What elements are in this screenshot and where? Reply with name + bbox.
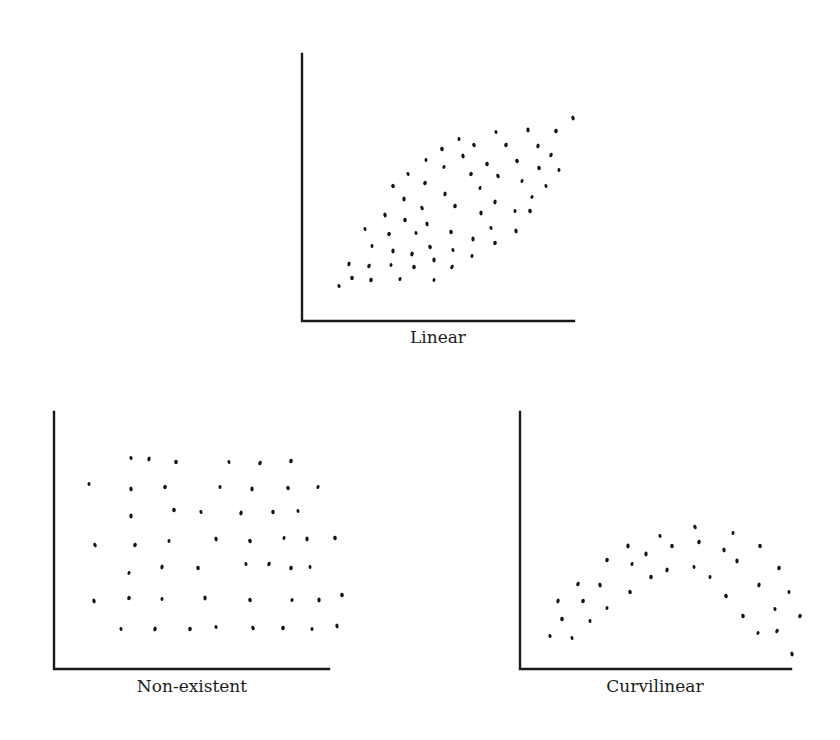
points-curvilinear bbox=[548, 524, 803, 657]
data-point bbox=[133, 542, 138, 547]
data-point bbox=[588, 619, 591, 623]
data-point bbox=[427, 244, 432, 249]
data-point bbox=[363, 227, 367, 232]
data-point bbox=[644, 551, 648, 556]
data-point bbox=[470, 254, 473, 258]
data-point bbox=[741, 613, 745, 618]
points-nonexistent bbox=[87, 456, 344, 632]
data-point bbox=[731, 531, 735, 536]
data-point bbox=[310, 627, 313, 631]
data-point bbox=[398, 277, 402, 282]
points-linear bbox=[337, 115, 576, 288]
data-point bbox=[167, 539, 170, 543]
data-point bbox=[451, 248, 455, 253]
data-point bbox=[153, 626, 157, 632]
data-point bbox=[282, 536, 286, 541]
data-point bbox=[777, 566, 781, 571]
axes-linear bbox=[302, 54, 574, 321]
data-point bbox=[163, 484, 168, 489]
data-point bbox=[605, 606, 609, 610]
data-point bbox=[787, 590, 790, 594]
data-point bbox=[723, 593, 728, 598]
data-point bbox=[548, 634, 552, 639]
data-point bbox=[626, 543, 630, 548]
data-point bbox=[251, 625, 256, 631]
data-point bbox=[496, 173, 501, 179]
data-point bbox=[244, 562, 248, 567]
data-point bbox=[127, 571, 131, 576]
data-point bbox=[424, 158, 427, 162]
data-point bbox=[756, 631, 760, 636]
data-point bbox=[420, 205, 425, 211]
chart-nonexistent: Non-existent bbox=[54, 412, 344, 696]
data-point bbox=[391, 248, 395, 253]
data-point bbox=[576, 581, 581, 587]
data-point bbox=[598, 582, 602, 588]
data-point bbox=[160, 564, 164, 569]
data-point bbox=[305, 537, 308, 542]
data-point bbox=[347, 261, 351, 266]
data-point bbox=[670, 544, 674, 549]
data-point bbox=[560, 617, 564, 621]
data-point bbox=[485, 162, 489, 167]
figure-canvas: Linear Non-existent Curvilinear bbox=[0, 0, 840, 740]
data-point bbox=[461, 153, 466, 159]
data-point bbox=[453, 204, 457, 209]
data-point bbox=[649, 575, 653, 580]
data-point bbox=[658, 534, 662, 539]
axes-nonexistent bbox=[54, 412, 329, 669]
data-point bbox=[119, 627, 123, 632]
data-point bbox=[281, 625, 286, 630]
data-point bbox=[469, 171, 474, 176]
data-point bbox=[147, 456, 151, 461]
data-point bbox=[172, 508, 176, 513]
axes-curvilinear bbox=[520, 412, 791, 669]
data-point bbox=[127, 595, 132, 600]
data-point bbox=[489, 226, 493, 231]
data-point bbox=[537, 166, 541, 171]
data-point bbox=[554, 129, 558, 134]
data-point bbox=[160, 597, 163, 601]
data-point bbox=[218, 485, 222, 489]
data-point bbox=[317, 597, 321, 602]
data-point bbox=[432, 278, 436, 283]
data-point bbox=[370, 244, 373, 248]
data-point bbox=[790, 651, 795, 657]
data-point bbox=[214, 625, 218, 629]
data-point bbox=[391, 183, 396, 188]
data-point bbox=[693, 524, 698, 530]
data-point bbox=[665, 567, 670, 573]
data-point bbox=[493, 199, 497, 205]
label-linear: Linear bbox=[410, 327, 467, 347]
data-point bbox=[443, 191, 447, 196]
data-point bbox=[722, 547, 726, 552]
data-point bbox=[440, 146, 444, 151]
data-point bbox=[369, 278, 373, 283]
data-point bbox=[196, 566, 200, 571]
data-point bbox=[308, 565, 311, 569]
data-point bbox=[129, 513, 133, 518]
data-point bbox=[248, 597, 253, 602]
data-point bbox=[528, 208, 533, 213]
data-point bbox=[93, 542, 98, 548]
data-point bbox=[708, 575, 711, 579]
chart-curvilinear: Curvilinear bbox=[520, 412, 802, 696]
data-point bbox=[406, 172, 410, 177]
data-point bbox=[570, 636, 574, 641]
data-point bbox=[129, 486, 133, 492]
data-point bbox=[239, 510, 244, 516]
data-point bbox=[367, 263, 372, 269]
data-point bbox=[271, 510, 275, 515]
data-point bbox=[337, 284, 341, 289]
data-point bbox=[493, 241, 497, 246]
data-point bbox=[479, 210, 483, 215]
data-point bbox=[758, 544, 762, 549]
data-point bbox=[605, 557, 610, 562]
data-point bbox=[129, 456, 133, 461]
data-point bbox=[333, 535, 337, 540]
data-point bbox=[581, 599, 585, 604]
data-point bbox=[340, 593, 344, 598]
data-point bbox=[214, 536, 218, 541]
data-point bbox=[514, 228, 518, 233]
data-point bbox=[203, 595, 207, 600]
